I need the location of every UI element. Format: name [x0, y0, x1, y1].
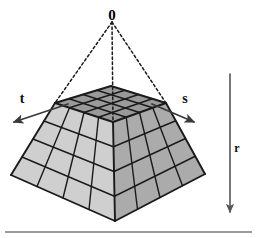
axis-label-t: t	[20, 91, 25, 106]
figure-canvas: 0 t s r	[0, 0, 257, 238]
frustum-solid	[11, 86, 205, 221]
axis-label-r: r	[234, 141, 240, 155]
apex-label: 0	[108, 7, 116, 23]
frustum-left-face	[11, 103, 115, 221]
axis-label-s: s	[182, 91, 188, 106]
pyramid-frustum-figure: 0 t s r	[0, 0, 257, 238]
